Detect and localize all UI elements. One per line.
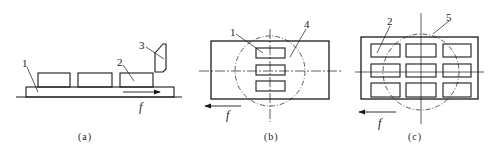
- workpiece: [371, 83, 400, 97]
- caption-b: (b): [264, 131, 279, 143]
- leader-line: [290, 29, 306, 57]
- callout-5: 5: [446, 11, 452, 23]
- leader-line: [377, 26, 390, 53]
- callout-1: 1: [22, 57, 28, 69]
- callout-2: 2: [387, 15, 393, 27]
- workpiece: [443, 64, 471, 77]
- workpiece: [256, 65, 285, 75]
- workpiece: [120, 73, 153, 87]
- feed-label: f: [378, 116, 383, 130]
- callout-2: 2: [117, 56, 123, 68]
- cutter-tool: [155, 44, 166, 72]
- panel-a: f 1 2 3 (a): [16, 39, 182, 143]
- callout-1: 1: [230, 26, 236, 38]
- workpiece: [256, 48, 285, 58]
- leader-line: [27, 67, 38, 92]
- panel-c: 2 5 f (c): [355, 11, 484, 143]
- workpiece: [38, 73, 70, 87]
- diagram-canvas: f 1 2 3 (a) 1 4 f (b): [0, 0, 492, 155]
- leader-line: [236, 34, 263, 53]
- feed-label: f: [139, 100, 144, 114]
- workpiece: [371, 44, 400, 57]
- feed-label: f: [226, 108, 231, 122]
- callout-3: 3: [139, 39, 145, 51]
- callout-4: 4: [304, 18, 310, 30]
- caption-c: (c): [408, 131, 422, 143]
- panel-b: 1 4 f (b): [199, 18, 343, 143]
- table-outline: [361, 37, 478, 99]
- workpiece: [78, 73, 112, 87]
- workpiece: [256, 81, 285, 91]
- caption-a: (a): [78, 131, 92, 143]
- workpiece: [371, 64, 400, 77]
- workpiece: [443, 44, 471, 57]
